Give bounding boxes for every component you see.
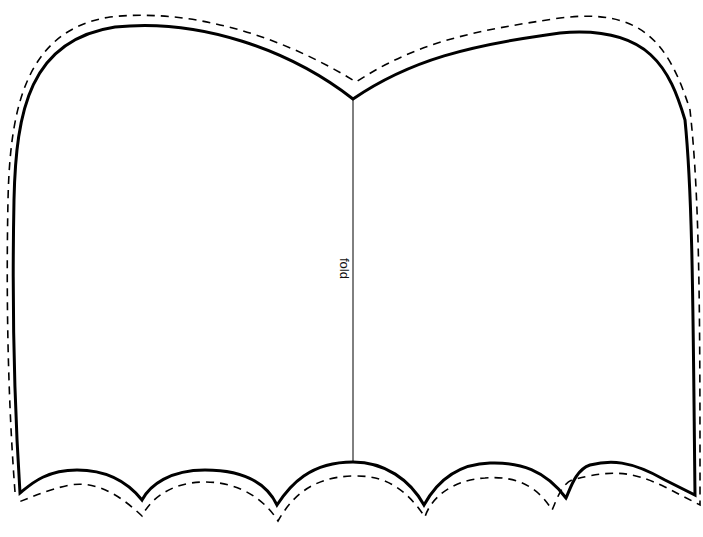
- cut-line-dashed: [7, 15, 700, 521]
- template-outline: [13, 25, 695, 505]
- fold-label: fold: [322, 258, 352, 288]
